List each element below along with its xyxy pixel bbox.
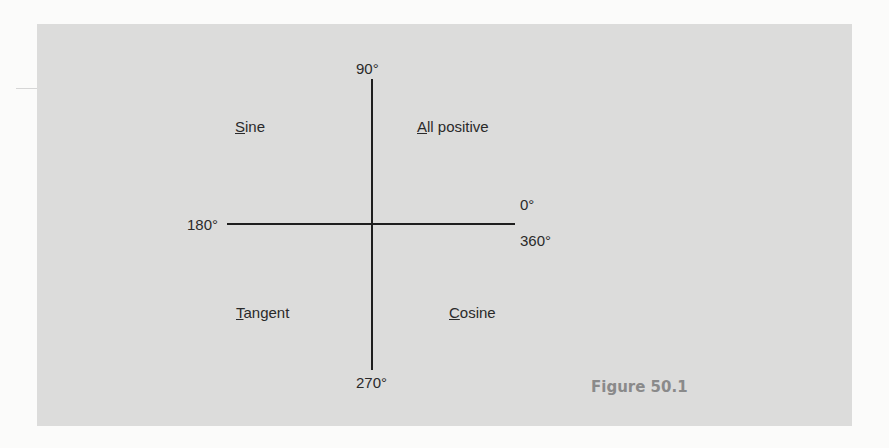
quadrant-initial: C [449,304,460,321]
quadrant-label-sine: Sine [235,118,265,135]
figure-caption: Figure 50.1 [591,378,688,396]
horizontal-axis [227,223,515,225]
figure-panel [37,24,852,426]
quadrant-initial: S [235,118,245,135]
quadrant-rest: osine [460,304,496,321]
quadrant-initial: T [236,304,244,321]
angle-label-270: 270° [356,374,387,391]
quadrant-label-all-positive: All positive [417,118,489,135]
quadrant-label-tangent: Tangent [236,304,289,321]
quadrant-rest: ine [245,118,265,135]
quadrant-initial: A [417,118,427,135]
angle-label-0: 0° [520,196,534,213]
angle-label-180: 180° [187,216,218,233]
quadrant-label-cosine: Cosine [449,304,496,321]
angle-label-90: 90° [356,60,379,77]
quadrant-rest: angent [244,304,290,321]
quadrant-rest: ll positive [427,118,489,135]
angle-label-360: 360° [520,232,551,249]
